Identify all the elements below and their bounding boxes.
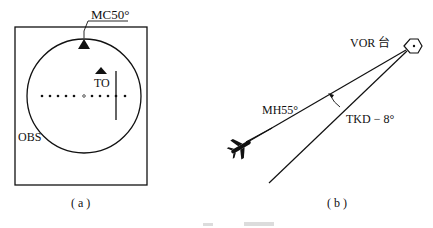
panel-b-caption: ( b ) — [327, 196, 347, 210]
to-flag-triangle-icon — [95, 67, 107, 74]
to-flag-label: TO — [94, 76, 110, 90]
track-deviation-label: TKD − 8° — [346, 112, 394, 126]
vor-station-label: VOR 台 — [350, 35, 390, 50]
panel-a-caption: ( a ) — [71, 196, 90, 210]
course-label: MC50° — [91, 7, 129, 22]
course-label-leader — [84, 21, 128, 38]
aircraft-icon — [224, 132, 256, 163]
truncated-figure-caption — [203, 222, 274, 226]
obs-label: OBS — [18, 130, 41, 144]
panel-a-vor-indicator: MC50° TO OBS ( a ) — [15, 7, 147, 210]
cdi-dot-scale — [41, 95, 127, 98]
heading-label: MH55° — [262, 103, 298, 117]
figure-canvas: MC50° TO OBS ( a ) VOR 台 MH55° TKD − — [0, 0, 433, 228]
indicator-frame — [15, 27, 147, 185]
vor-station-center-dot — [413, 45, 415, 47]
course-index-triangle-icon — [78, 39, 90, 49]
panel-b-track-diagram: VOR 台 MH55° TKD − 8° ( b ) — [224, 35, 422, 210]
heading-line — [246, 128, 272, 142]
